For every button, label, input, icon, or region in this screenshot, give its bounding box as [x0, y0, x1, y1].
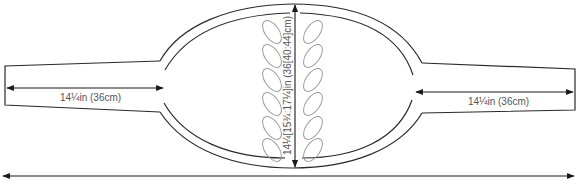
- body-height-label: 14¼[15¾:17¼]in (36[40:44]cm): [282, 16, 293, 155]
- left-sleeve-label: 14¼in (36cm): [60, 92, 121, 103]
- left-sleeve: [5, 61, 160, 112]
- right-sleeve-label: 14¼in (36cm): [468, 96, 529, 107]
- garment-schematic: 14¼in (36cm) 14¼in (36cm) 14¼[15¾:17¼]in…: [0, 0, 577, 187]
